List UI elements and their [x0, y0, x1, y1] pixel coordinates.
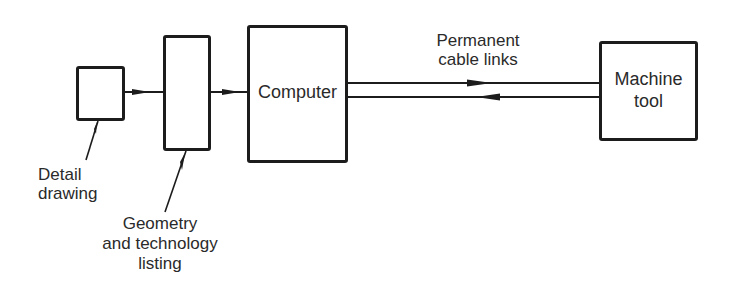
listing-label-line1: Geometry [95, 214, 225, 234]
listing-label-line3: listing [95, 254, 225, 274]
machine-tool-label-line1: Machine [602, 68, 695, 90]
machine-tool-box: Machine tool [599, 41, 698, 141]
cable-label-line2: cable links [418, 50, 538, 70]
detail-drawing-label-line2: drawing [38, 184, 98, 204]
geometry-listing-box [163, 35, 211, 151]
leader-detail-drawing [86, 121, 98, 160]
computer-box: Computer [247, 25, 348, 163]
cable-link-to-computer [348, 94, 599, 101]
machine-tool-label-line2: tool [602, 90, 695, 112]
detail-drawing-box [76, 66, 125, 121]
detail-drawing-label-line1: Detail [38, 165, 81, 185]
arrow-listing-to-computer [211, 89, 247, 95]
cable-link-to-machine [348, 80, 599, 87]
listing-label-line2: and technology [85, 234, 235, 254]
cable-label-line1: Permanent [418, 31, 538, 51]
arrow-detail-to-listing [125, 89, 163, 95]
leader-geometry-listing [165, 151, 186, 212]
computer-label: Computer [250, 81, 345, 103]
